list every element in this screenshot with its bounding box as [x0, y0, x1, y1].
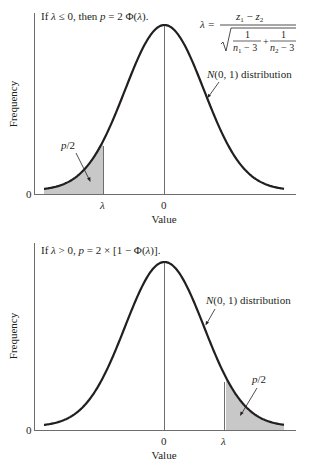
y-axis-label: Frequency: [7, 312, 19, 359]
y-tick-0: 0: [26, 424, 32, 436]
distribution-label: N(0, 1) distribution: [206, 68, 292, 81]
x-axis-label: Value: [151, 449, 176, 461]
chart-title: If λ > 0, p = 2 × [1 − Φ(λ)].: [41, 244, 161, 257]
tail-label: p/2: [251, 373, 266, 385]
tail-label: p/2: [60, 139, 75, 151]
x-tick-lambda: λ: [220, 435, 226, 447]
x-tick-lambda: λ: [99, 199, 105, 211]
chart-title: If λ ≤ 0, then p = 2 Φ(λ).: [41, 10, 149, 23]
svg-text:+: +: [263, 36, 269, 47]
svg-text:1: 1: [281, 29, 286, 40]
svg-text:n1 − 3: n1 − 3: [233, 42, 257, 55]
y-tick-0: 0: [26, 188, 32, 200]
distribution-arrow: [206, 309, 216, 326]
lambda-formula: λ = z1 − z2 1 n1 − 3 + 1 n2 − 3: [199, 10, 296, 55]
svg-text:1: 1: [245, 29, 250, 40]
x-tick-0: 0: [161, 199, 167, 211]
chart-bottom: If λ > 0, p = 2 × [1 − Φ(λ)]. N(0, 1) di…: [7, 243, 296, 461]
svg-text:z1 − z2: z1 − z2: [235, 10, 264, 24]
y-axis-label: Frequency: [7, 80, 19, 127]
distribution-arrow: [208, 82, 220, 98]
chart-top: If λ ≤ 0, then p = 2 Φ(λ). λ = z1 − z2 1…: [7, 10, 296, 225]
distribution-label: N(0, 1) distribution: [205, 294, 291, 307]
svg-text:n2 − 3: n2 − 3: [270, 42, 294, 55]
svg-text:λ =: λ =: [199, 18, 215, 30]
x-axis-label: Value: [151, 213, 176, 225]
x-tick-0: 0: [161, 435, 167, 447]
figure: If λ ≤ 0, then p = 2 Φ(λ). λ = z1 − z2 1…: [0, 0, 310, 467]
